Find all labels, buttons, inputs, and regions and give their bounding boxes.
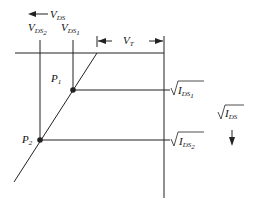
p2-label: P2 (21, 133, 33, 147)
p1-label: P1 (50, 72, 61, 86)
vt-arrow-left-head (98, 38, 106, 44)
vt-arrow-right-head (155, 38, 163, 44)
svg-text:IDS2: IDS2 (178, 135, 195, 151)
sqrt-ids-axis-label: IDS (218, 105, 244, 121)
vds-arrow-head (28, 11, 36, 17)
vt-label: VT (123, 34, 135, 48)
point-p2 (37, 137, 43, 143)
vds2-label: VDS2 (28, 21, 47, 37)
point-p1 (70, 87, 76, 93)
vds-axis-label: VDS (50, 8, 66, 22)
ids-arrow-head (229, 137, 235, 146)
vds1-label: VDS1 (61, 21, 80, 37)
sqrt-ids1-label: IDS1 (171, 81, 204, 100)
svg-text:IDS1: IDS1 (177, 84, 194, 100)
sqrt-ids2-label: IDS2 (171, 132, 204, 151)
mosfet-threshold-diagram: VDS VDS2 VDS1 VT P1 P2 IDS1 IDS2 IDS (0, 0, 257, 207)
svg-text:IDS: IDS (224, 107, 238, 121)
